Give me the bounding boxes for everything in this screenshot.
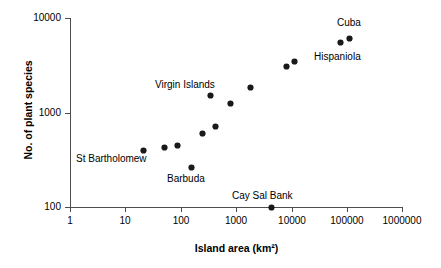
x-tick-label-10: 10 bbox=[93, 216, 157, 226]
y-tick-label-10000: 10000 bbox=[15, 13, 61, 23]
data-point bbox=[208, 93, 213, 98]
x-tick-1000 bbox=[236, 207, 237, 212]
y-axis-line bbox=[70, 18, 71, 208]
data-point bbox=[284, 64, 289, 69]
x-tick-100000 bbox=[347, 207, 348, 212]
x-tick-100 bbox=[181, 207, 182, 212]
data-point bbox=[141, 148, 146, 153]
y-tick-10000 bbox=[65, 18, 70, 19]
point-annotation: Virgin Islands bbox=[155, 79, 215, 90]
data-point bbox=[189, 165, 194, 170]
data-point bbox=[162, 145, 167, 150]
point-annotation: Cay Sal Bank bbox=[232, 190, 293, 201]
data-point bbox=[200, 131, 205, 136]
data-point bbox=[347, 36, 352, 41]
y-axis-title: No. of plant species bbox=[22, 30, 34, 190]
x-tick-1000000 bbox=[402, 207, 403, 212]
x-tick-1 bbox=[70, 207, 71, 212]
point-annotation: Hispaniola bbox=[314, 51, 361, 62]
point-annotation: Barbuda bbox=[167, 173, 205, 184]
point-annotation: Cuba bbox=[337, 17, 361, 28]
scatter-chart: 10000 1000 100 1 10 100 1000 10000 10000… bbox=[0, 0, 441, 268]
data-point bbox=[292, 59, 297, 64]
point-annotation: St Bartholomew bbox=[76, 153, 147, 164]
x-tick-10 bbox=[125, 207, 126, 212]
x-tick-10000 bbox=[292, 207, 293, 212]
y-tick-label-100: 100 bbox=[15, 202, 61, 212]
x-axis-title: Island area (km²) bbox=[70, 242, 403, 254]
x-tick-label-1000: 1000 bbox=[204, 216, 268, 226]
x-tick-label-1000000: 1000000 bbox=[370, 216, 434, 226]
y-tick-1000 bbox=[65, 113, 70, 114]
data-point bbox=[338, 40, 343, 45]
data-point bbox=[269, 205, 274, 210]
data-point bbox=[248, 85, 253, 90]
data-point bbox=[213, 124, 218, 129]
data-point bbox=[228, 101, 233, 106]
data-point bbox=[175, 143, 180, 148]
